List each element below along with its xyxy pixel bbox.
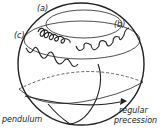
label-a: (a): [37, 5, 48, 13]
cap-ellipse-inner: [46, 10, 122, 38]
curve-b-cusps: [76, 28, 129, 51]
label-regular: regular: [119, 107, 148, 115]
label-b: (b): [114, 21, 125, 29]
curve-a-loops: [38, 28, 70, 43]
label-pendulum: pendulum: [2, 116, 42, 124]
label-precession: precession: [114, 117, 157, 125]
label-c: (c): [14, 32, 25, 40]
equator-back: [19, 72, 143, 89]
pendulum-path: [48, 64, 101, 124]
arrow-head-icon: [120, 98, 127, 105]
